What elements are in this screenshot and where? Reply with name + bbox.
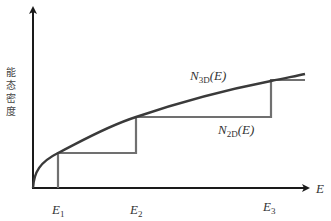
energy-label-e3: E3 bbox=[262, 199, 276, 216]
n3d-label: N3D(E) bbox=[189, 68, 226, 85]
energy-label-e2: E2 bbox=[129, 202, 142, 219]
energy-label-e1: E1 bbox=[51, 202, 64, 219]
density-of-states-diagram: N3D(E) N2D(E) E1 E2 E3 E bbox=[0, 0, 331, 221]
n3d-sqrt-curve bbox=[33, 74, 305, 188]
x-axis-label: E bbox=[315, 181, 324, 196]
n2d-label: N2D(E) bbox=[217, 122, 254, 139]
